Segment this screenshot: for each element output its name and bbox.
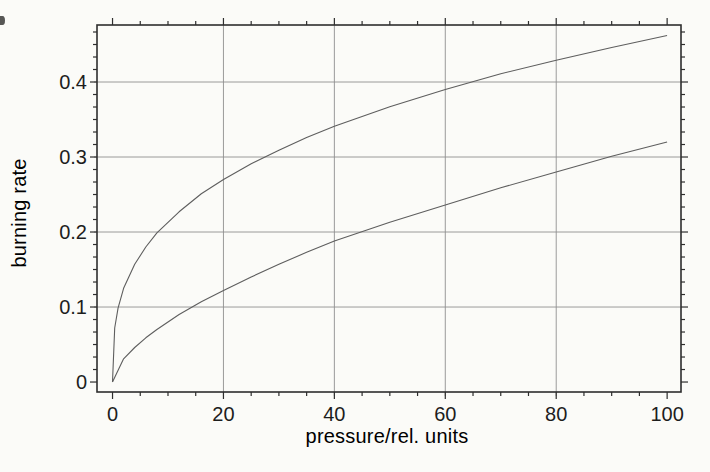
x-tick-label-20: 20 xyxy=(212,403,234,425)
burning-rate-chart: 02040608010000.10.20.30.4 xyxy=(0,0,710,472)
y-axis-title: burning rate xyxy=(7,113,31,313)
y-tick-label-0.4: 0.4 xyxy=(59,71,87,93)
x-tick-label-40: 40 xyxy=(323,403,345,425)
x-tick-label-0: 0 xyxy=(107,403,118,425)
lower-curve xyxy=(113,142,668,382)
scan-artifact xyxy=(0,16,5,25)
y-tick-label-0.1: 0.1 xyxy=(59,296,87,318)
x-axis-title: pressure/rel. units xyxy=(237,424,537,448)
y-tick-label-0: 0 xyxy=(76,371,87,393)
x-tick-label-100: 100 xyxy=(650,403,683,425)
x-tick-label-60: 60 xyxy=(434,403,456,425)
y-tick-label-0.2: 0.2 xyxy=(59,221,87,243)
x-tick-label-80: 80 xyxy=(545,403,567,425)
y-tick-label-0.3: 0.3 xyxy=(59,146,87,168)
burning-rate-figure: 02040608010000.10.20.30.4 pressure/rel. … xyxy=(0,0,710,472)
upper-curve xyxy=(113,36,668,383)
plot-frame xyxy=(97,25,681,392)
